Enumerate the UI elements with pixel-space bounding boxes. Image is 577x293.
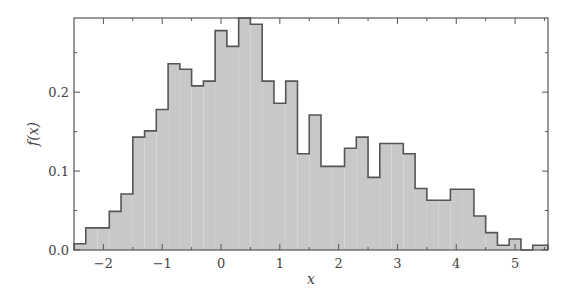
y-tick-label: 0.2 — [48, 85, 69, 100]
histogram-bin — [168, 64, 180, 250]
histogram-bin — [86, 228, 98, 250]
histogram-bin — [403, 154, 415, 250]
histogram-bin — [345, 148, 357, 250]
histogram-bin — [109, 211, 121, 250]
histogram-bin — [427, 200, 439, 250]
histogram-bin — [133, 137, 145, 250]
x-tick-label: 1 — [276, 256, 284, 271]
histogram-bin — [297, 154, 309, 250]
histogram-bin — [368, 177, 380, 250]
histogram-bin — [486, 233, 498, 250]
x-tick-label: 2 — [334, 256, 342, 271]
histogram-bin — [450, 189, 462, 250]
histogram-bin — [309, 115, 321, 250]
histogram-bin — [462, 189, 474, 250]
histogram-chart: −2−1012345 0.00.10.2 x f(x) — [0, 0, 577, 293]
x-tick-label: 0 — [217, 256, 225, 271]
histogram-bin — [121, 194, 133, 250]
histogram-bin — [274, 103, 286, 250]
histogram-bin — [180, 69, 192, 250]
histogram-bin — [203, 81, 215, 250]
histogram-bin — [262, 81, 274, 250]
histogram-bin — [74, 244, 86, 250]
histogram-bin — [321, 166, 333, 250]
histogram-bin — [215, 31, 227, 250]
histogram-bin — [227, 46, 239, 250]
histogram-bin — [380, 143, 392, 250]
histogram-bin — [239, 18, 251, 250]
histogram-bin — [145, 131, 157, 250]
x-tick-label: 5 — [511, 256, 519, 271]
x-tick-label: −1 — [153, 256, 172, 271]
x-tick-label: 3 — [393, 256, 401, 271]
y-tick-label: 0.0 — [48, 243, 69, 258]
histogram-bin — [439, 200, 451, 250]
x-tick-label: 4 — [452, 256, 460, 271]
histogram-bin — [392, 143, 404, 250]
x-tick-label: −2 — [94, 256, 113, 271]
y-axis-label: f(x) — [25, 122, 41, 147]
histogram-bin — [356, 137, 368, 250]
histogram-bin — [156, 110, 168, 250]
histogram-bin — [192, 86, 204, 250]
histogram-bin — [286, 81, 298, 250]
histogram-bin — [474, 216, 486, 250]
histogram-bin — [250, 24, 262, 250]
histogram-bin — [415, 188, 427, 250]
x-axis-label: x — [307, 271, 315, 287]
y-tick-label: 0.1 — [48, 164, 69, 179]
histogram-bin — [333, 166, 345, 250]
